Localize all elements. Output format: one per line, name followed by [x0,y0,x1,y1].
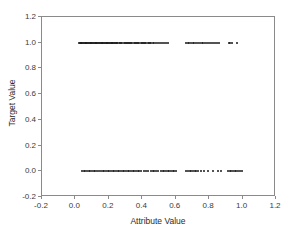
x-tick-label: 0.6 [169,201,180,210]
x-tick-mark [41,196,42,199]
scatter-plot-figure: Attribute Value Target Value -0.20.00.20… [0,0,292,238]
data-point [203,170,205,172]
y-tick-mark [38,170,41,171]
data-point [175,170,177,172]
x-tick-mark [275,196,276,199]
data-point [197,170,199,172]
y-tick-label: 0.8 [3,63,36,72]
y-tick-mark [38,196,41,197]
y-tick-mark [38,42,41,43]
x-tick-label: -0.2 [34,201,48,210]
y-tick-mark [38,145,41,146]
x-tick-mark [141,196,142,199]
data-point [220,170,222,172]
x-tick-mark [242,196,243,199]
x-tick-label: 1.2 [269,201,280,210]
y-tick-label: 0.2 [3,140,36,149]
y-tick-mark [38,93,41,94]
x-tick-label: 0.2 [102,201,113,210]
data-point [140,170,142,172]
y-tick-mark [38,119,41,120]
x-tick-mark [108,196,109,199]
x-tick-label: 1.0 [236,201,247,210]
data-point [217,170,219,172]
x-tick-mark [208,196,209,199]
data-point [231,42,233,44]
y-tick-label: -0.2 [3,192,36,201]
y-tick-label: 1.0 [3,37,36,46]
x-axis-title: Attribute Value [41,216,275,226]
y-tick-label: 1.2 [3,12,36,21]
y-tick-label: 0.4 [3,114,36,123]
x-tick-mark [175,196,176,199]
x-tick-mark [74,196,75,199]
data-point [236,42,238,44]
x-tick-label: 0.8 [203,201,214,210]
y-tick-mark [38,67,41,68]
data-point [167,42,169,44]
y-tick-label: 0.6 [3,89,36,98]
data-point [207,170,209,172]
y-tick-label: 0.0 [3,166,36,175]
data-point [218,42,220,44]
data-point [200,170,202,172]
x-tick-label: 0.0 [69,201,80,210]
y-tick-mark [38,16,41,17]
x-tick-label: 0.4 [136,201,147,210]
plot-area [41,16,275,196]
data-point [147,170,149,172]
data-point [212,170,214,172]
data-point [241,170,243,172]
